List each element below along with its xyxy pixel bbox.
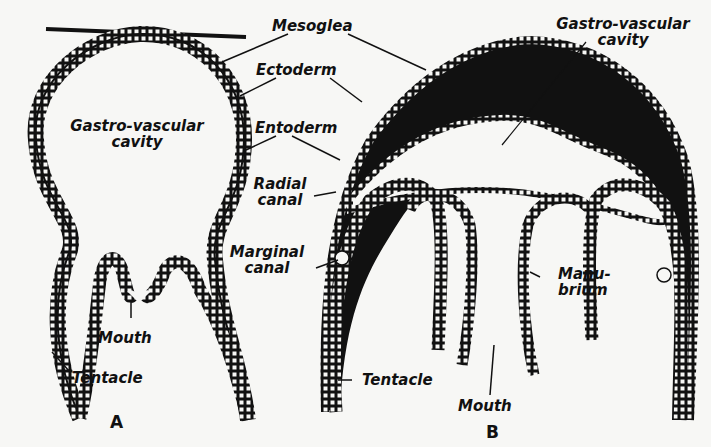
figure-letter-b: B — [486, 422, 499, 442]
figure-letter-a: A — [110, 412, 123, 432]
label-a-gastrovascular-cavity: Gastro-vascular cavity — [52, 118, 222, 150]
label-b-manubrium: Manu- brium — [558, 266, 611, 298]
polyp-figure-a — [36, 29, 248, 420]
label-b-gastrovascular-cavity: Gastro-vascular cavity — [538, 16, 708, 48]
label-entoderm: Entoderm — [255, 120, 337, 136]
hydra-medusa-diagram: Mesoglea Ectoderm Entoderm Radial canal … — [0, 0, 711, 447]
medusa-figure-b — [314, 40, 695, 420]
label-b-mouth: Mouth — [458, 398, 512, 414]
label-mesoglea: Mesoglea — [272, 18, 353, 34]
label-a-mouth: Mouth — [98, 330, 152, 346]
label-ectoderm: Ectoderm — [256, 62, 337, 78]
label-radial-canal: Radial canal — [245, 176, 315, 208]
label-marginal-canal: Marginal canal — [222, 244, 312, 276]
label-b-tentacle: Tentacle — [362, 372, 433, 388]
label-a-tentacle: Tentacle — [72, 370, 143, 386]
